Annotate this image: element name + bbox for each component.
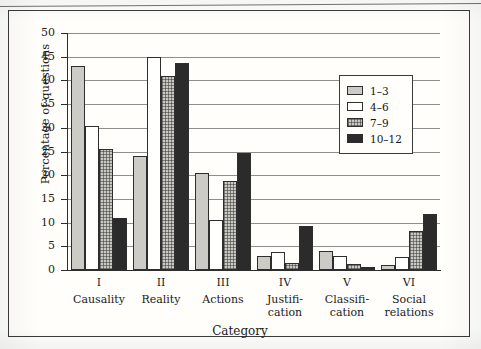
x-axis-category-vi: VISocialrelations (371, 277, 447, 320)
bar (257, 256, 271, 270)
y-axis-tick-label: 45 (33, 51, 55, 62)
legend-item: 10–12 (347, 131, 405, 146)
legend-swatch-icon (347, 134, 363, 143)
legend-label: 4–6 (370, 101, 389, 113)
y-axis-tick-label: 40 (33, 74, 55, 85)
bar (133, 156, 147, 270)
bar (223, 181, 237, 270)
legend-label: 1–3 (370, 85, 389, 97)
chart-page: Percentage of questions 5045403530252015… (0, 0, 481, 349)
legend: 1–34–67–910–12 (339, 75, 413, 154)
bar-group (195, 33, 251, 270)
bar (285, 263, 299, 270)
bar (319, 251, 333, 270)
category-name: Social (371, 294, 447, 307)
legend-label: 10–12 (370, 133, 402, 145)
y-axis-tick-label: 0 (33, 264, 55, 275)
bar (85, 126, 99, 270)
y-axis-tick-label: 30 (33, 122, 55, 133)
bar (271, 252, 285, 270)
category-name: relations (371, 307, 447, 320)
bar (161, 76, 175, 270)
bar (209, 220, 223, 270)
bar (347, 264, 361, 270)
y-axis-tick-label: 50 (33, 27, 55, 38)
page-header-rule (0, 3, 481, 7)
bar (381, 265, 395, 270)
bar (361, 267, 375, 270)
bar (237, 153, 251, 270)
y-axis-tick-label: 35 (33, 98, 55, 109)
bar-group (257, 33, 313, 270)
legend-swatch-icon (347, 86, 363, 95)
bar (423, 214, 437, 270)
legend-swatch-icon (347, 118, 363, 127)
y-axis-tick-label: 15 (33, 193, 55, 204)
legend-item: 1–3 (347, 83, 405, 98)
bar-group (133, 33, 189, 270)
bar (333, 256, 347, 270)
bar (175, 63, 189, 270)
bar (99, 149, 113, 270)
legend-item: 7–9 (347, 115, 405, 130)
bar (409, 231, 423, 270)
bar (71, 66, 85, 270)
bar (299, 226, 313, 270)
bar (113, 218, 127, 270)
chart-frame: Percentage of questions 5045403530252015… (8, 10, 470, 337)
legend-swatch-icon (347, 102, 363, 111)
x-axis-title: Category (9, 324, 471, 338)
bar (195, 173, 209, 270)
y-axis-tick-label: 5 (33, 240, 55, 251)
bar (147, 57, 161, 270)
y-axis-tick-label: 25 (33, 146, 55, 157)
legend-label: 7–9 (370, 117, 389, 129)
legend-item: 4–6 (347, 99, 405, 114)
category-roman: VI (371, 277, 447, 290)
y-axis-tick-label: 20 (33, 169, 55, 180)
y-axis-tick-label: 10 (33, 217, 55, 228)
bar-group (71, 33, 127, 270)
x-axis-line (67, 270, 441, 271)
bar (395, 257, 409, 270)
